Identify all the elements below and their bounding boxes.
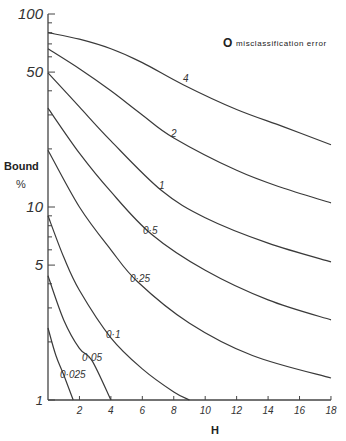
curve-label: 0·1	[106, 329, 120, 340]
axes: 15105010024681012141618	[18, 5, 337, 416]
chart: 15105010024681012141618 4210·50·250·10·0…	[0, 0, 346, 441]
y-tick-label: 10	[26, 198, 43, 215]
curve-label: 0·25	[130, 273, 150, 284]
legend: O misclassification error	[223, 36, 327, 50]
curve-0-025	[48, 328, 73, 400]
x-tick-label: 2	[76, 405, 83, 416]
y-tick-label: 100	[18, 5, 44, 22]
x-tick-label: 10	[200, 405, 212, 416]
curve-2	[48, 49, 331, 203]
x-tick-label: 14	[263, 405, 275, 416]
x-tick-label: 4	[108, 405, 114, 416]
curve-label: 0·025	[60, 369, 86, 380]
curve-label: 0·05	[82, 352, 102, 363]
x-tick-label: 18	[325, 405, 337, 416]
curve-label: 0·5	[143, 225, 158, 236]
curve-0-05	[48, 276, 111, 400]
curves	[48, 33, 331, 400]
x-tick-label: 6	[140, 405, 146, 416]
legend-text: misclassification error	[236, 39, 327, 48]
x-axis-title: H	[211, 424, 219, 436]
y-tick-label: 50	[26, 63, 43, 80]
curve-0-25	[48, 150, 331, 378]
curve-label: 2	[170, 128, 177, 139]
curve-label: 4	[183, 73, 189, 84]
y-tick-label: 5	[35, 256, 44, 273]
y-axis-unit: %	[16, 178, 26, 190]
curve-0-5	[48, 108, 331, 320]
x-tick-label: 12	[231, 405, 243, 416]
legend-symbol: O	[223, 36, 232, 50]
curve-labels: 4210·50·250·10·050·025	[60, 73, 189, 380]
x-tick-label: 8	[171, 405, 177, 416]
y-tick-label: 1	[36, 393, 43, 408]
curve-4	[48, 33, 331, 145]
curve-label: 1	[159, 180, 165, 191]
y-axis-title: Bound	[4, 160, 39, 172]
x-tick-label: 16	[294, 405, 306, 416]
